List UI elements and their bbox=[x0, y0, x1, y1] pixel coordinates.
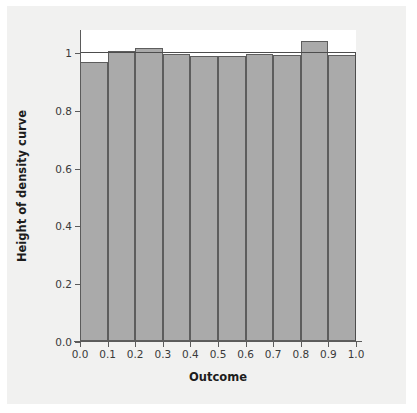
x-tick-label: 0.0 bbox=[72, 348, 89, 360]
x-tick-label: 0.9 bbox=[320, 348, 337, 360]
y-tick-label: 0.2 bbox=[55, 278, 72, 290]
plot-area: 0.00.20.40.60.81 0.00.10.20.30.40.50.60.… bbox=[80, 30, 356, 342]
histogram-bar bbox=[218, 56, 246, 341]
y-tick-mark bbox=[75, 111, 80, 112]
y-tick-label: 0.0 bbox=[55, 336, 72, 348]
x-tick-label: 0.2 bbox=[127, 348, 144, 360]
y-tick-label: 1 bbox=[65, 47, 72, 59]
x-tick-mark bbox=[190, 342, 191, 347]
histogram-bar bbox=[273, 55, 301, 341]
histogram-bar bbox=[246, 54, 274, 341]
x-tick-mark bbox=[218, 342, 219, 347]
y-axis-title: Height of density curve bbox=[15, 110, 29, 262]
x-tick-mark bbox=[273, 342, 274, 347]
y-tick-mark bbox=[75, 169, 80, 170]
x-tick-mark bbox=[246, 342, 247, 347]
x-tick-label: 0.8 bbox=[292, 348, 309, 360]
y-tick-mark bbox=[75, 226, 80, 227]
y-tick-mark bbox=[75, 53, 80, 54]
x-tick-mark bbox=[135, 342, 136, 347]
y-axis-line bbox=[80, 30, 81, 342]
x-tick-label: 0.3 bbox=[154, 348, 171, 360]
x-tick-label: 0.6 bbox=[237, 348, 254, 360]
chart-figure: 0.00.20.40.60.81 0.00.10.20.30.40.50.60.… bbox=[7, 6, 406, 404]
x-tick-label: 0.7 bbox=[265, 348, 282, 360]
histogram-bar bbox=[328, 55, 356, 341]
x-tick-mark bbox=[80, 342, 81, 347]
x-tick-label: 0.4 bbox=[182, 348, 199, 360]
x-axis-title: Outcome bbox=[80, 370, 356, 384]
x-tick-mark bbox=[163, 342, 164, 347]
histogram-bar bbox=[108, 51, 136, 341]
y-tick-label: 0.4 bbox=[55, 220, 72, 232]
histogram-bar bbox=[80, 62, 108, 341]
x-tick-mark bbox=[328, 342, 329, 347]
y-tick-label: 0.6 bbox=[55, 163, 72, 175]
x-tick-mark bbox=[356, 342, 357, 347]
histogram-bar bbox=[135, 48, 163, 341]
histogram-bar bbox=[301, 41, 329, 341]
x-tick-label: 0.1 bbox=[99, 348, 116, 360]
y-tick-label: 0.8 bbox=[55, 105, 72, 117]
x-tick-mark bbox=[301, 342, 302, 347]
y-tick-mark bbox=[75, 284, 80, 285]
histogram-bar bbox=[190, 56, 218, 341]
x-tick-label: 0.5 bbox=[210, 348, 227, 360]
x-tick-mark bbox=[108, 342, 109, 347]
histogram-bar bbox=[163, 54, 191, 341]
x-tick-label: 1.0 bbox=[348, 348, 365, 360]
